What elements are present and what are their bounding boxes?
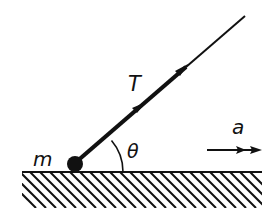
angle-arc	[112, 141, 124, 173]
ground-hatching	[0, 172, 272, 208]
acceleration-arrow-icon	[207, 146, 262, 154]
acceleration-label: a	[232, 117, 244, 137]
angle-label: θ	[127, 142, 139, 161]
mass-ball	[67, 156, 83, 172]
tension-label: T	[128, 74, 141, 95]
mass-label: m	[33, 149, 52, 169]
physics-diagram	[0, 0, 272, 218]
